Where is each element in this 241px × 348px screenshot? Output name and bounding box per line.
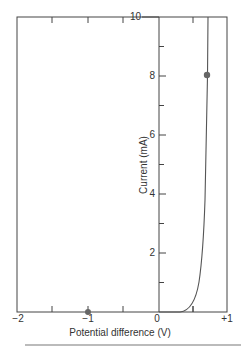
iv-curve	[159, 17, 208, 312]
data-point	[85, 309, 91, 315]
bottom-ticks	[52, 306, 193, 312]
x-tick-label: −2	[12, 313, 24, 324]
x-tick-label: 0	[154, 313, 160, 324]
x-tick-label: +1	[221, 313, 233, 324]
y-tick-label: 2	[149, 247, 155, 258]
y-tick-label: 6	[149, 129, 155, 140]
y-axis-title: Current (mA)	[138, 136, 149, 194]
plot-frame	[17, 17, 227, 312]
y-tick-label: 8	[149, 70, 155, 81]
x-axis-title: Potential difference (V)	[69, 327, 171, 338]
data-point	[204, 72, 210, 78]
top-ticks	[52, 17, 193, 23]
iv-chart: 2 4 6 8 10 −2 −1 0 +1 Potential differen…	[0, 0, 241, 348]
y-tick-label: 4	[149, 188, 155, 199]
y-tick-label: 10	[130, 11, 142, 22]
